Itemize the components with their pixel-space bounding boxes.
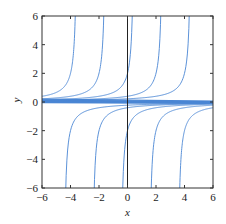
x-tick-label: −4: [65, 191, 77, 203]
x-tick-label: −2: [93, 191, 105, 203]
y-tick-label: −6: [26, 182, 38, 194]
x-tick-label: 0: [125, 191, 131, 203]
y-tick-label: −2: [26, 125, 38, 137]
x-axis-label: x: [124, 206, 130, 218]
y-tick-label: 6: [33, 10, 39, 22]
y-tick-label: 4: [33, 39, 39, 51]
lower-branch-curve: [65, 103, 213, 202]
upper-branch-curve: [42, 2, 190, 101]
y-tick-label: 0: [33, 96, 39, 108]
x-tick-label: 6: [210, 191, 216, 203]
solution-curves-chart: −6−4−20246 −6−4−20246 x y: [0, 0, 226, 224]
x-axis-ticks: −6−4−20246: [36, 16, 216, 203]
x-tick-label: 4: [182, 191, 188, 203]
y-tick-label: 2: [33, 67, 39, 79]
y-axis-label: y: [10, 97, 22, 103]
x-tick-label: 2: [153, 191, 159, 203]
y-tick-label: −4: [26, 153, 38, 165]
